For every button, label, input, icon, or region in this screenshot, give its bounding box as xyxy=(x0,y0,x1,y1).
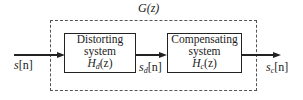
group-g-label: G(z) xyxy=(138,1,159,16)
output-arrowhead-icon xyxy=(273,52,281,58)
output-signal-line xyxy=(242,54,274,56)
distorting-system-block: Distorting system Hd(z) xyxy=(64,33,136,73)
distorting-subtitle: system xyxy=(84,45,116,57)
compensating-subtitle: system xyxy=(189,45,221,57)
compensating-transfer-function: Hc(z) xyxy=(192,57,217,73)
intermediate-signal-line xyxy=(136,54,160,56)
compensating-title: Compensating xyxy=(171,33,237,45)
compensating-tf-arg: (z) xyxy=(204,57,217,69)
intermediate-arrowhead-icon xyxy=(159,52,167,58)
compensating-system-block: Compensating system Hc(z) xyxy=(167,33,242,73)
distorting-tf-arg: (z) xyxy=(100,57,113,69)
output-signal-arg: [n] xyxy=(274,60,288,74)
output-signal-label: sc[n] xyxy=(266,60,288,75)
distorting-title: Distorting xyxy=(77,33,124,45)
input-signal-line xyxy=(14,54,58,56)
input-signal-arg: [n] xyxy=(19,58,33,72)
distorting-tf-symbol: H xyxy=(87,57,95,69)
distorting-transfer-function: Hd(z) xyxy=(87,57,112,73)
intermediate-signal-arg: [n] xyxy=(148,60,162,74)
intermediate-signal-label: sd[n] xyxy=(139,60,162,75)
group-g-label-text: G(z) xyxy=(138,1,159,15)
input-signal-label: s[n] xyxy=(14,58,33,73)
